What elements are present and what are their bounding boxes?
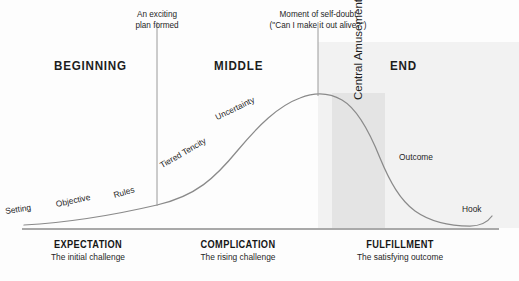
stage-title-expectation: EXPECTATION xyxy=(54,238,122,250)
baseline-axis xyxy=(22,228,499,230)
stage-subtitle-fulfillment: The satisfying outcome xyxy=(357,252,443,262)
stage-caption-expectation: EXPECTATION The initial challenge xyxy=(49,238,127,262)
stage-subtitle-expectation: The initial challenge xyxy=(49,252,127,262)
curve-label-outcome: Outcome xyxy=(399,152,433,162)
stage-subtitle-complication: The rising challenge xyxy=(195,252,280,262)
annotation-plan-formed-line1: An exciting xyxy=(137,10,177,19)
curve-label-hook: Hook xyxy=(462,204,482,214)
annotation-plan-formed-line2: plan formed xyxy=(135,21,178,30)
annotation-plan-formed: An exciting plan formed xyxy=(135,10,178,32)
curve-label-central-amusement: Central Amusement xyxy=(352,0,364,100)
stage-caption-fulfillment: FULFILLMENT The satisfying outcome xyxy=(357,238,443,262)
stage-caption-complication: COMPLICATION The rising challenge xyxy=(195,238,280,262)
stage-title-fulfillment: FULFILLMENT xyxy=(362,238,438,250)
act-heading-end: END xyxy=(390,58,417,73)
narrative-arc-diagram: An exciting plan formed Moment of self-d… xyxy=(0,0,519,281)
act-heading-beginning: BEGINNING xyxy=(54,58,127,73)
annotation-self-doubt-line1: Moment of self-doubt xyxy=(280,10,357,19)
act-heading-middle: MIDDLE xyxy=(214,58,263,73)
stage-title-complication: COMPLICATION xyxy=(201,238,276,250)
